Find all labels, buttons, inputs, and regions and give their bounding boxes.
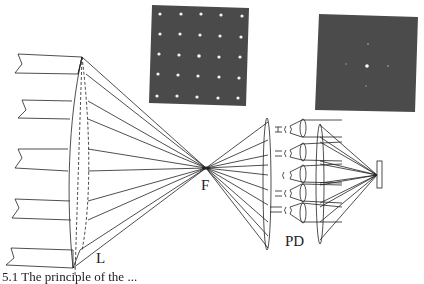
lenslet-array bbox=[270, 126, 292, 214]
lens-label: L bbox=[96, 250, 105, 267]
detector-label: PD bbox=[285, 233, 304, 250]
focus-label: F bbox=[201, 177, 209, 194]
spot-array-image bbox=[149, 5, 249, 106]
focal-point bbox=[202, 166, 210, 169]
optics-diagram bbox=[0, 0, 424, 284]
detector-plate bbox=[377, 161, 382, 188]
figure-caption: 5.1 The principle of the ... bbox=[2, 269, 137, 284]
single-spot-image bbox=[315, 14, 418, 112]
